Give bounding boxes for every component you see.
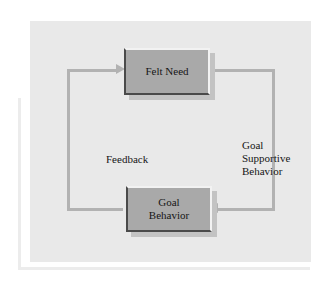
node-felt-need-label: Felt Need xyxy=(124,48,210,95)
node-goal-behavior[interactable]: Goal Behavior xyxy=(126,186,212,232)
connector-top-right-segment xyxy=(210,69,275,72)
edge-label-goal-supportive-behavior: Goal Supportive Behavior xyxy=(242,139,290,178)
diagram-canvas: Felt Need Goal Behavior Feedback Goal Su… xyxy=(0,0,336,285)
connector-top-left-segment xyxy=(67,69,119,72)
connector-bottom-left-segment xyxy=(67,208,123,211)
connector-left-vertical xyxy=(67,69,70,211)
node-felt-need[interactable]: Felt Need xyxy=(124,48,210,95)
edge-label-feedback: Feedback xyxy=(106,153,148,166)
connector-bottom-right-segment xyxy=(215,208,275,211)
diagram-panel: Felt Need Goal Behavior Feedback Goal Su… xyxy=(30,21,311,262)
node-goal-behavior-label: Goal Behavior xyxy=(126,186,212,232)
